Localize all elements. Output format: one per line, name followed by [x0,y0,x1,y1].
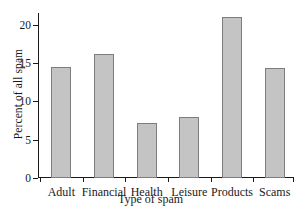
y-axis-line [38,13,39,178]
y-tick-label: 0 [6,172,31,184]
x-tick-mark [293,178,294,182]
y-axis-title: Percent of all spam [12,14,24,174]
y-tick-mark [33,140,38,141]
bar [51,67,71,178]
y-tick-label: 20 [6,19,31,31]
plot-area: 05101520 AdultFinancialHealthLeisureProd… [38,13,294,178]
x-tick-mark [168,178,169,182]
y-tick-mark [33,25,38,26]
bar [222,17,242,178]
x-tick-mark [253,178,254,182]
x-axis-title: Type of spam [0,192,301,207]
bar [94,54,114,178]
bar-chart-figure: Percent of all spam 05101520 AdultFinanc… [0,0,301,217]
y-tick-label: 10 [6,95,31,107]
x-tick-mark [211,178,212,182]
x-tick-mark [83,178,84,182]
x-tick-mark [125,178,126,182]
bar [265,68,285,178]
y-tick-mark [33,101,38,102]
y-tick-label: 15 [6,57,31,69]
bar [179,117,199,178]
bar [137,123,157,178]
y-tick-label: 5 [6,134,31,146]
x-tick-mark [40,178,41,182]
y-tick-mark [33,63,38,64]
y-tick-mark [33,178,38,179]
x-axis-line [38,177,294,178]
